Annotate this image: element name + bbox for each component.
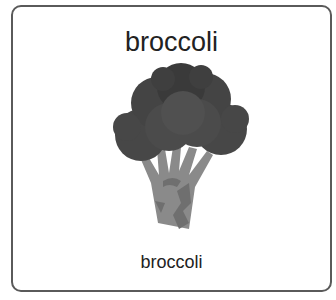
florets — [113, 63, 249, 161]
flashcard[interactable]: broccoli broccoli — [11, 5, 332, 292]
card-title: broccoli — [13, 27, 330, 57]
card-label: broccoli — [13, 251, 330, 273]
broccoli-icon — [103, 63, 253, 241]
